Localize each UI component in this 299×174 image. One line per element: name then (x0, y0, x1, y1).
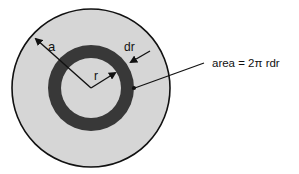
label-dr: dr (124, 40, 135, 54)
annulus-diagram: a r dr area = 2π rdr (0, 0, 299, 174)
label-a: a (48, 39, 56, 54)
label-r: r (94, 69, 98, 83)
area-formula-label: area = 2π rdr (212, 57, 280, 69)
area-leader-dot (132, 86, 136, 90)
